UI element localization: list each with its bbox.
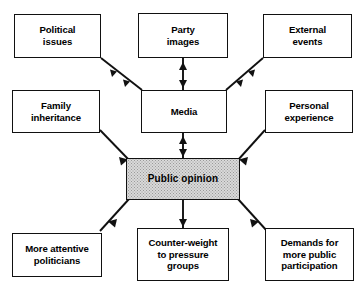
node-demands-label: Demands formore publicparticipation <box>278 237 342 272</box>
arrowhead-media-up <box>179 136 187 144</box>
arrowhead-party-up <box>179 62 187 70</box>
edge-family-inheritance-to-public-opinion <box>100 130 129 160</box>
node-family-inheritance-label: Familyinheritance <box>28 100 84 123</box>
node-more-attentive-politicians-label: More attentivepoliticians <box>22 243 92 266</box>
node-external-events[interactable]: Externalevents <box>263 14 352 58</box>
node-counter-weight-label: Counter-weightto pressuregroups <box>146 237 221 272</box>
node-political-issues-label: Politicalissues <box>37 24 79 47</box>
node-public-opinion-label: Public opinion <box>145 173 221 185</box>
node-personal-experience-label: Personalexperience <box>281 100 336 123</box>
node-media[interactable]: Media <box>141 90 227 133</box>
node-political-issues[interactable]: Politicalissues <box>14 14 101 58</box>
node-external-events-label: Externalevents <box>286 24 329 47</box>
node-personal-experience[interactable]: Personalexperience <box>265 90 353 133</box>
node-media-label: Media <box>168 106 201 118</box>
node-public-opinion[interactable]: Public opinion <box>126 158 240 200</box>
node-party-images[interactable]: Partyimages <box>138 13 228 58</box>
edge-political-issues-to-media <box>101 58 142 90</box>
node-more-attentive-politicians[interactable]: More attentivepoliticians <box>12 233 102 277</box>
node-demands[interactable]: Demands formore publicparticipation <box>265 228 354 281</box>
arrowhead-party-down <box>179 80 187 88</box>
node-family-inheritance[interactable]: Familyinheritance <box>12 90 100 133</box>
diagram-canvas: Politicalissues Partyimages Externaleven… <box>0 0 364 291</box>
edge-personal-experience-to-public-opinion <box>238 130 265 160</box>
arrowhead-counter-weight <box>179 219 187 227</box>
node-party-images-label: Partyimages <box>164 24 202 47</box>
arrowhead-media-down <box>179 149 187 157</box>
node-counter-weight[interactable]: Counter-weightto pressuregroups <box>137 228 229 281</box>
edge-external-events-to-media <box>226 58 263 90</box>
